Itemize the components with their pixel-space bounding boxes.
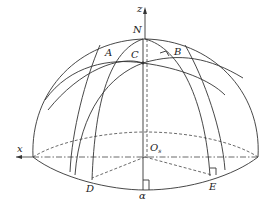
label-x: x: [17, 143, 23, 154]
label-z: z: [136, 3, 143, 14]
meridian-left-outer: [70, 45, 100, 172]
base-rim-back: [33, 132, 258, 157]
diagram-canvas: z N A C B x Os D α E: [0, 0, 274, 200]
point-c: [142, 62, 145, 65]
right-angle-e: [210, 168, 216, 175]
label-n: N: [132, 24, 143, 35]
label-a: A: [104, 47, 112, 58]
label-o: Os: [150, 142, 161, 154]
hemisphere-diagram: z N A C B x Os D α E: [0, 0, 274, 200]
label-e: E: [208, 181, 217, 192]
outer-dome: [33, 39, 258, 157]
meridian-right-outer: [185, 45, 225, 170]
segment-oe: [145, 157, 212, 175]
z-axis-arrow-icon: [143, 7, 147, 14]
x-axis-arrow-icon: [16, 155, 22, 159]
right-angle-alpha: [143, 180, 149, 190]
great-circle-arc-ac: [48, 61, 143, 110]
label-alpha: α: [139, 190, 146, 200]
segment-od: [92, 157, 145, 178]
label-d: D: [85, 183, 94, 194]
label-b: B: [173, 46, 181, 57]
label-c: C: [131, 49, 139, 60]
meridian-nd: [92, 39, 143, 180]
great-circle-left: [45, 62, 225, 100]
